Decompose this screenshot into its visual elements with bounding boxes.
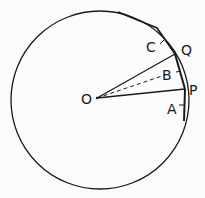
label-Q: Q bbox=[181, 42, 192, 58]
label-B: B bbox=[162, 67, 172, 83]
tick-C bbox=[160, 40, 164, 44]
label-P: P bbox=[189, 82, 197, 98]
label-A: A bbox=[167, 101, 177, 117]
point-O bbox=[96, 97, 98, 99]
label-O: O bbox=[81, 91, 92, 107]
geometry-figure: C Q B P A O bbox=[0, 0, 205, 198]
label-C: C bbox=[146, 39, 156, 55]
circle bbox=[11, 11, 189, 189]
polygon-edge-lower bbox=[184, 89, 185, 121]
diagram-canvas: C Q B P A O bbox=[0, 0, 205, 198]
